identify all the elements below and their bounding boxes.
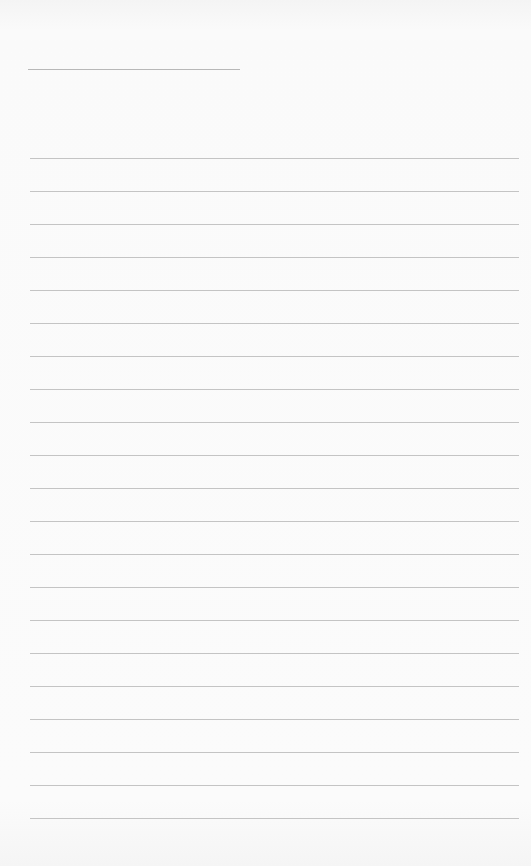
ruled-line: [30, 653, 519, 654]
ruled-line: [30, 587, 519, 588]
ruled-line: [30, 818, 519, 819]
ruled-line: [30, 389, 519, 390]
ruled-line: [30, 455, 519, 456]
ruled-line: [30, 752, 519, 753]
ruled-line: [30, 356, 519, 357]
ruled-line: [30, 521, 519, 522]
ruled-line: [30, 290, 519, 291]
ruled-line: [30, 488, 519, 489]
ruled-line: [30, 257, 519, 258]
ruled-line: [30, 554, 519, 555]
ruled-line: [30, 686, 519, 687]
lined-paper-sheet: [0, 0, 531, 866]
ruled-line: [30, 224, 519, 225]
ruled-line: [30, 323, 519, 324]
ruled-line: [30, 785, 519, 786]
ruled-line: [30, 620, 519, 621]
ruled-line: [30, 191, 519, 192]
ruled-line: [30, 422, 519, 423]
ruled-line: [30, 719, 519, 720]
title-underline: [28, 69, 240, 70]
ruled-line: [30, 158, 519, 159]
